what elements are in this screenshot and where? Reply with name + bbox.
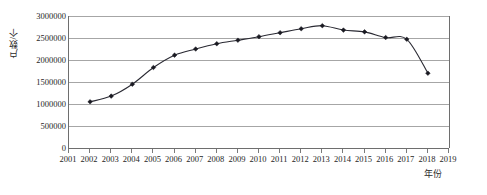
x-tick — [131, 149, 132, 153]
y-tick-label: 1500000 — [22, 78, 66, 87]
x-tick — [216, 149, 217, 153]
y-tick-label: 500000 — [22, 122, 66, 131]
x-tick — [110, 149, 111, 153]
data-point-marker — [341, 28, 346, 33]
x-tick — [279, 149, 280, 153]
x-tick — [174, 149, 175, 153]
x-tick — [237, 149, 238, 153]
x-tick — [300, 149, 301, 153]
x-tick-label: 2011 — [271, 154, 288, 165]
x-tick — [385, 149, 386, 153]
x-axis-tick-labels: 2001200220032004200520062007200820092010… — [0, 154, 487, 168]
x-tick-label: 2010 — [250, 154, 267, 165]
y-tick-label: 1000000 — [22, 100, 66, 109]
x-tick-label: 2012 — [292, 154, 309, 165]
data-point-marker — [362, 30, 367, 35]
line-chart: 户数/个 05000001000000150000020000002500000… — [0, 0, 487, 195]
x-tick — [448, 149, 449, 153]
x-tick — [68, 149, 69, 153]
data-point-marker — [320, 23, 325, 28]
x-tick-label: 2005 — [144, 154, 161, 165]
data-point-marker — [383, 35, 388, 40]
x-tick-label: 2018 — [418, 154, 435, 165]
x-tick-label: 2017 — [397, 154, 414, 165]
x-tick — [406, 149, 407, 153]
x-tick — [427, 149, 428, 153]
y-axis-tick-labels: 0500000100000015000002000000250000030000… — [22, 0, 66, 158]
x-tick — [195, 149, 196, 153]
x-tick — [152, 149, 153, 153]
x-tick-label: 2001 — [60, 154, 77, 165]
x-axis-title: 年份 — [424, 169, 442, 180]
data-point-marker — [257, 34, 262, 39]
data-point-marker — [278, 30, 283, 35]
data-point-marker — [426, 71, 431, 76]
x-tick — [321, 149, 322, 153]
data-point-marker — [236, 38, 241, 43]
x-tick-label: 2009 — [228, 154, 245, 165]
y-tick-label: 3000000 — [22, 12, 66, 21]
x-tick — [89, 149, 90, 153]
data-point-marker — [214, 41, 219, 46]
data-point-marker — [193, 47, 198, 52]
x-tick — [364, 149, 365, 153]
x-tick-label: 2019 — [440, 154, 457, 165]
x-tick — [342, 149, 343, 153]
x-tick-label: 2014 — [334, 154, 351, 165]
x-tick-label: 2013 — [313, 154, 330, 165]
x-tick-label: 2008 — [207, 154, 224, 165]
x-tick-label: 2007 — [186, 154, 203, 165]
x-tick — [258, 149, 259, 153]
data-point-marker — [109, 94, 114, 99]
x-tick-label: 2016 — [376, 154, 393, 165]
plot-area — [68, 16, 450, 148]
y-tick-label: 2500000 — [22, 34, 66, 43]
data-point-marker — [299, 26, 304, 31]
x-tick-label: 2002 — [81, 154, 98, 165]
data-point-marker — [88, 100, 93, 105]
data-series-layer — [69, 16, 449, 148]
x-tick-label: 2015 — [355, 154, 372, 165]
data-point-marker — [172, 53, 177, 58]
y-tick-label: 2000000 — [22, 56, 66, 65]
x-tick-label: 2004 — [123, 154, 140, 165]
x-tick-label: 2006 — [165, 154, 182, 165]
y-tick-label: 0 — [22, 144, 66, 153]
x-axis-ticks — [68, 149, 449, 153]
x-tick-label: 2003 — [102, 154, 119, 165]
